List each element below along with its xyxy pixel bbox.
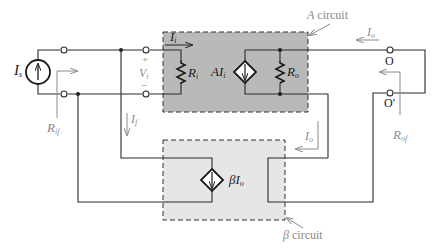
beta-circuit-pointer-icon (287, 218, 303, 228)
beta-io-label: βIo (229, 173, 244, 188)
a-circuit-label: A circuit (307, 9, 348, 21)
junction-dot (278, 48, 282, 52)
terminal (143, 91, 149, 97)
input-current-label: Ii (170, 30, 177, 45)
ai-label: AIi (211, 65, 226, 80)
if-label: If (131, 113, 137, 127)
terminal (61, 91, 67, 97)
terminal-o-label: O (385, 55, 394, 67)
terminal-o-prime-label: O′ (384, 97, 395, 109)
current-source-icon (26, 60, 50, 84)
junction-dot (278, 92, 282, 96)
vi-plus-label: + (142, 54, 148, 65)
rif-label: Rif (47, 121, 59, 136)
source-label: Is (14, 63, 22, 79)
junction-dot (76, 92, 80, 96)
io-mid-label: Io (305, 130, 313, 144)
junction-dot (119, 48, 123, 52)
vi-minus-label: − (141, 80, 147, 91)
ri-label: Ri (188, 66, 198, 81)
rof-label: Rof (393, 128, 407, 143)
terminal-o (387, 47, 393, 53)
ro-label: Ro (287, 65, 299, 80)
beta-circuit-label: β circuit (283, 229, 323, 241)
a-circuit-pointer-icon (310, 24, 330, 35)
terminal (61, 47, 67, 53)
io-top-label: Io (367, 26, 375, 40)
